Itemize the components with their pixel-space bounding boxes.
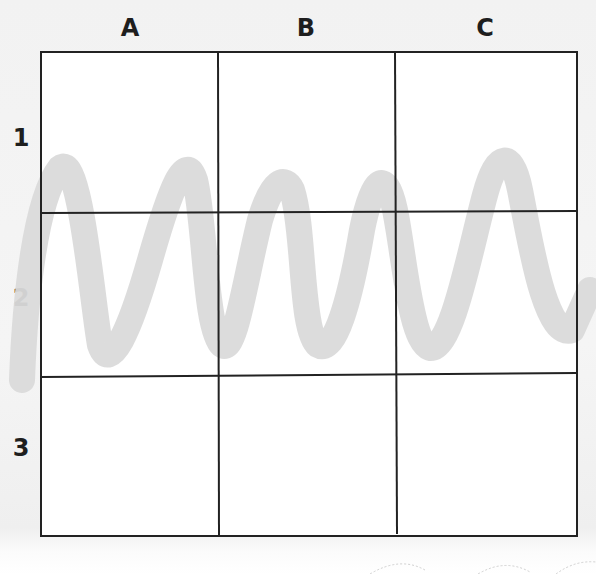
cell-c1[interactable] — [396, 53, 576, 211]
cell-b1[interactable] — [219, 53, 395, 212]
cell-c2[interactable] — [396, 212, 576, 373]
scan-artifact-arc — [556, 562, 596, 574]
cell-b2[interactable] — [219, 213, 395, 375]
scan-artifact-arc — [478, 565, 530, 574]
cell-a3[interactable] — [42, 378, 218, 535]
cell-b3[interactable] — [219, 376, 395, 535]
cell-a2[interactable] — [42, 214, 218, 376]
grid-drawing — [0, 0, 596, 574]
grid-col-divider-1 — [218, 52, 219, 536]
cell-c3[interactable] — [396, 374, 576, 534]
scan-artifact-arc — [370, 564, 425, 574]
cell-a1[interactable] — [42, 53, 218, 212]
